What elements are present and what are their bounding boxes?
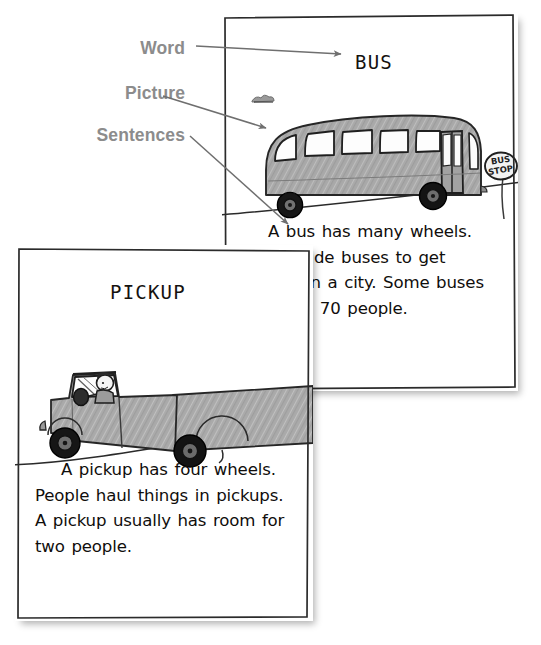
bus-wheel-rear xyxy=(277,192,302,217)
pickup-wheel-front xyxy=(50,428,80,458)
card-bus-title: BUS xyxy=(355,51,393,73)
card-pickup: PICKUP xyxy=(15,245,313,621)
worksheet-page: Word Picture Sentences BUS xyxy=(0,0,541,645)
cloud-shape xyxy=(252,95,274,102)
callout-label-word: Word xyxy=(0,38,185,59)
card-pickup-title: PICKUP xyxy=(110,281,186,303)
callout-label-picture: Picture xyxy=(0,83,185,104)
bus-wheel-front xyxy=(420,183,447,210)
bus-vehicle xyxy=(266,116,487,195)
callout-label-sentences: Sentences xyxy=(0,125,185,146)
card-pickup-sentences: A pickup has four wheels. People haul th… xyxy=(15,457,313,559)
